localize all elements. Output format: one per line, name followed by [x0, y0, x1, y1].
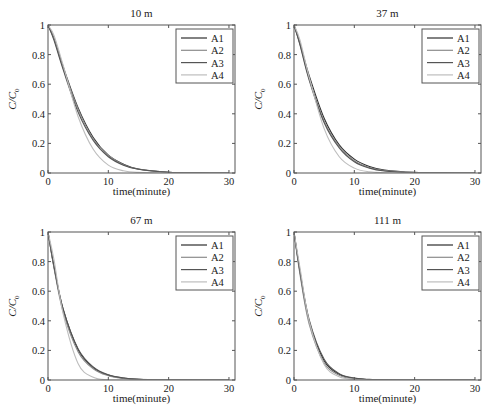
legend-label-a2: A2: [457, 45, 470, 56]
y-tick-label: 0.2: [278, 138, 291, 149]
legend-label-a3: A3: [457, 58, 470, 69]
legend-label-a4: A4: [211, 70, 225, 81]
x-tick-label: 30: [224, 176, 235, 187]
x-tick-label: 10: [103, 176, 114, 187]
legend: A1A2A3A4: [176, 29, 233, 83]
legend-label-a2: A2: [211, 45, 224, 56]
y-tick-label: 0.6: [278, 286, 291, 297]
y-tick-label: 0: [40, 168, 45, 179]
x-tick-label: 20: [409, 383, 420, 394]
subplot-111m: 111 m C/C0 time(minute) 010203000.20.40.…: [246, 207, 493, 416]
legend-label-a3: A3: [211, 58, 224, 69]
legend-label-a4: A4: [211, 277, 225, 288]
x-tick-label: 20: [163, 383, 174, 394]
legend-label-a4: A4: [457, 277, 471, 288]
legend-label-a1: A1: [211, 240, 224, 251]
y-tick-label: 0.2: [278, 345, 291, 356]
y-tick-label: 0: [286, 168, 291, 179]
x-tick-label: 0: [291, 176, 296, 187]
y-tick-label: 0.2: [32, 345, 45, 356]
subplot-37m: 37 m C/C0 time(minute) 010203000.20.40.6…: [246, 0, 493, 209]
y-tick-label: 0.6: [32, 286, 45, 297]
plot-area: 010203000.20.40.60.81A1A2A3A4: [246, 207, 493, 416]
y-tick-label: 0.8: [32, 50, 45, 61]
legend-label-a3: A3: [211, 265, 224, 276]
x-tick-label: 10: [103, 383, 114, 394]
y-tick-label: 1: [40, 20, 45, 31]
y-tick-label: 0: [286, 375, 291, 386]
y-tick-label: 0.4: [278, 109, 292, 120]
y-tick-label: 0.4: [32, 316, 46, 327]
y-tick-label: 0.6: [32, 79, 45, 90]
x-tick-label: 0: [291, 383, 296, 394]
x-tick-label: 10: [349, 383, 360, 394]
y-tick-label: 0.4: [32, 109, 46, 120]
legend-label-a2: A2: [211, 252, 224, 263]
legend-label-a1: A1: [211, 33, 224, 44]
x-tick-label: 10: [349, 176, 360, 187]
x-tick-label: 30: [470, 383, 481, 394]
y-tick-label: 1: [286, 227, 291, 238]
x-tick-label: 20: [163, 176, 174, 187]
legend: A1A2A3A4: [422, 29, 479, 83]
y-tick-label: 0: [40, 375, 45, 386]
plot-area: 010203000.20.40.60.81A1A2A3A4: [0, 0, 247, 209]
legend-label-a1: A1: [457, 33, 470, 44]
legend-label-a2: A2: [457, 252, 470, 263]
x-tick-label: 20: [409, 176, 420, 187]
x-tick-label: 30: [224, 383, 235, 394]
subplot-10m: 10 m C/C0 time(minute) 010203000.20.40.6…: [0, 0, 247, 209]
y-tick-label: 0.6: [278, 79, 291, 90]
x-tick-label: 0: [45, 176, 50, 187]
y-tick-label: 1: [286, 20, 291, 31]
y-tick-label: 1: [40, 227, 45, 238]
plot-area: 010203000.20.40.60.81A1A2A3A4: [0, 207, 247, 416]
legend: A1A2A3A4: [422, 236, 479, 290]
y-tick-label: 0.8: [32, 257, 45, 268]
plot-area: 010203000.20.40.60.81A1A2A3A4: [246, 0, 493, 209]
y-tick-label: 0.8: [278, 50, 291, 61]
y-tick-label: 0.2: [32, 138, 45, 149]
y-tick-label: 0.4: [278, 316, 292, 327]
legend-label-a3: A3: [457, 265, 470, 276]
x-tick-label: 30: [470, 176, 481, 187]
y-tick-label: 0.8: [278, 257, 291, 268]
subplot-67m: 67 m C/C0 time(minute) 010203000.20.40.6…: [0, 207, 247, 416]
x-tick-label: 0: [45, 383, 50, 394]
legend: A1A2A3A4: [176, 236, 233, 290]
legend-label-a1: A1: [457, 240, 470, 251]
legend-label-a4: A4: [457, 70, 471, 81]
